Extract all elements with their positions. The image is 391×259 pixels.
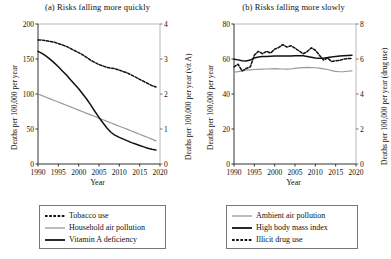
svg-text:4: 4 (360, 90, 364, 99)
svg-text:60: 60 (223, 55, 231, 64)
panel-a-ylabel-left: Deaths per 100,000 per year (10, 65, 19, 150)
svg-text:2020: 2020 (153, 168, 168, 177)
legend-label: Ambient air pollution (256, 211, 325, 220)
svg-text:8: 8 (360, 20, 364, 29)
svg-text:80: 80 (223, 20, 231, 29)
legend-item: Household air pollution (44, 221, 160, 233)
panel-b-title: (b) Risks falling more slowly (196, 2, 391, 13)
panel-b-plot-area: 0204060800246819901995200020052010201520… (196, 14, 391, 192)
legend-item: Tobacco use (44, 209, 160, 221)
svg-text:20: 20 (223, 125, 231, 134)
svg-text:1995: 1995 (51, 168, 66, 177)
svg-text:200: 200 (23, 20, 35, 29)
dashed-line-icon (44, 211, 66, 220)
panel-a-svg: 0501001502000123419901995200020052010201… (0, 14, 195, 192)
svg-text:2020: 2020 (349, 168, 364, 177)
svg-text:1990: 1990 (227, 168, 242, 177)
legend-item: High body mass index (231, 221, 352, 233)
solid-line-icon (44, 235, 66, 244)
svg-text:2015: 2015 (328, 168, 343, 177)
solid-line-icon (231, 211, 253, 220)
solid-line-icon (231, 223, 253, 232)
legend-label: Vitamin A deficiency (69, 235, 137, 244)
svg-text:2: 2 (360, 125, 364, 134)
panel-a: (a) Risks falling more quickly 050100150… (0, 0, 195, 259)
legend-label: Household air pollution (69, 223, 145, 232)
svg-text:1990: 1990 (31, 168, 46, 177)
svg-text:2010: 2010 (112, 168, 127, 177)
svg-text:2000: 2000 (267, 168, 282, 177)
svg-text:4: 4 (164, 20, 168, 29)
svg-text:3: 3 (164, 55, 168, 64)
legend-label: High body mass index (256, 223, 328, 232)
svg-text:100: 100 (23, 90, 35, 99)
legend-label: Illicit drug use (256, 235, 303, 244)
svg-text:2005: 2005 (288, 168, 303, 177)
panel-a-legend: Tobacco useHousehold air pollutionVitami… (39, 205, 166, 249)
figure-root: (a) Risks falling more quickly 050100150… (0, 0, 391, 259)
svg-text:6: 6 (360, 55, 364, 64)
panel-b: (b) Risks falling more slowly 0204060800… (196, 0, 391, 259)
solid-line-icon (44, 223, 66, 232)
legend-item: Ambient air pollution (231, 209, 352, 221)
svg-text:2000: 2000 (71, 168, 86, 177)
dashed-line-icon (231, 235, 253, 244)
svg-text:2005: 2005 (92, 168, 107, 177)
svg-text:2015: 2015 (132, 168, 147, 177)
svg-text:2: 2 (164, 90, 168, 99)
panel-b-svg: 0204060800246819901995200020052010201520… (196, 14, 391, 192)
panel-a-ylabel-right: Deaths per 100,000 per year (vit A) (184, 54, 193, 160)
svg-text:1995: 1995 (247, 168, 262, 177)
legend-item: Illicit drug use (231, 233, 352, 245)
panel-b-legend: Ambient air pollutionHigh body mass inde… (226, 205, 358, 249)
panel-a-plot-area: 0501001502000123419901995200020052010201… (0, 14, 195, 192)
panel-a-xlabel: Year (0, 178, 195, 187)
panel-b-xlabel: Year (196, 178, 391, 187)
svg-text:2010: 2010 (308, 168, 323, 177)
panel-a-title: (a) Risks falling more quickly (0, 2, 195, 13)
panel-b-ylabel-right: Deaths per 100,000 per year (drug use) (380, 48, 389, 165)
svg-text:1: 1 (164, 125, 168, 134)
legend-label: Tobacco use (69, 211, 109, 220)
svg-text:40: 40 (223, 90, 231, 99)
svg-text:150: 150 (23, 55, 35, 64)
svg-text:50: 50 (27, 125, 35, 134)
panel-b-ylabel-left: Deaths per 100,000 per year (206, 65, 215, 150)
legend-item: Vitamin A deficiency (44, 233, 160, 245)
